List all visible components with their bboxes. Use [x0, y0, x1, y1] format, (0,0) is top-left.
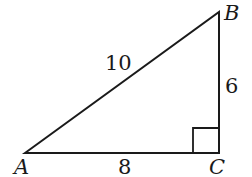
vertex-label-b: B	[223, 1, 239, 25]
side-label-ac: 8	[118, 155, 131, 177]
triangle-diagram: A B C 10 6 8	[0, 0, 252, 177]
side-label-bc: 6	[225, 74, 238, 98]
vertex-label-a: A	[12, 155, 29, 177]
triangle-abc	[25, 12, 219, 153]
right-angle-marker	[193, 128, 219, 153]
vertex-label-c: C	[209, 155, 225, 177]
side-label-ab: 10	[105, 51, 132, 75]
